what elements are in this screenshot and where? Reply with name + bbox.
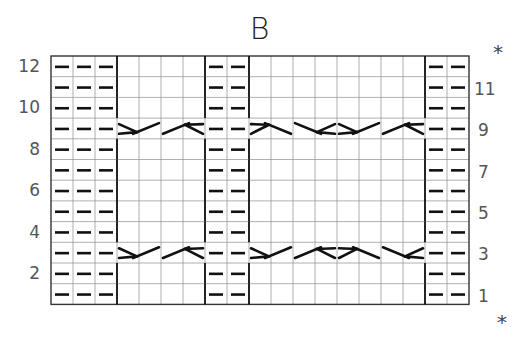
cable-stitch-stub: [251, 248, 269, 256]
cable-stitch-stub: [317, 132, 335, 134]
cable-stitch-stub: [405, 248, 423, 256]
row-number-label: 7: [478, 163, 489, 181]
row-number-label: 12: [0, 57, 40, 75]
cable-stitch-stub: [405, 125, 423, 134]
cable-stitch-stub: [119, 256, 137, 258]
row-number-label: 11: [474, 80, 496, 98]
cable-stitch-stub: [317, 124, 335, 132]
cable-stitch-stub: [339, 132, 357, 134]
row-number-label: 9: [478, 121, 489, 139]
row-number-label: 10: [0, 98, 40, 116]
cable-stitch-stub: [185, 125, 203, 134]
row-number-label: 1: [478, 287, 489, 305]
row-number-label: 2: [0, 264, 40, 282]
cable-stitch-stub: [185, 249, 203, 258]
repeat-marker-top: *: [493, 40, 503, 64]
cable-stitch-stub: [251, 256, 269, 258]
cable-stitch-stub: [339, 124, 357, 132]
repeat-marker-bottom: *: [497, 310, 507, 334]
cable-stitch-stub: [317, 249, 335, 258]
cable-stitch-stub: [251, 125, 269, 134]
cable-stitch-stub: [119, 132, 137, 134]
row-number-label: 6: [0, 181, 40, 199]
knitting-chart: [0, 0, 519, 348]
row-number-label: 5: [478, 204, 489, 222]
cable-stitch-stub: [339, 249, 357, 258]
cable-stitch-stub: [405, 256, 423, 258]
cable-stitch-stub: [119, 124, 137, 132]
cable-stitch-stub: [119, 248, 137, 256]
row-number-label: 8: [0, 140, 40, 158]
row-number-label: 4: [0, 223, 40, 241]
row-number-label: 3: [478, 245, 489, 263]
